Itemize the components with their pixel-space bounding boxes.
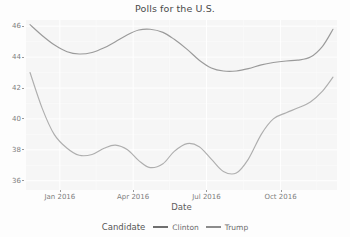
legend-title: Candidate	[102, 222, 145, 232]
plot-panel	[26, 20, 337, 190]
y-tick-mark	[22, 118, 24, 119]
legend-key-icon	[206, 223, 221, 231]
x-axis-title: Date	[26, 202, 337, 212]
x-tick-label: Apr 2016	[103, 193, 163, 201]
y-tick: 42	[0, 83, 26, 93]
legend-label: Trump	[225, 223, 248, 232]
y-tick: 38	[0, 145, 26, 155]
y-tick-label: 44	[12, 52, 21, 62]
x-tick-mark	[206, 190, 207, 192]
y-tick-label: 36	[12, 176, 21, 186]
x-tick-mark	[60, 190, 61, 192]
y-tick: 46	[0, 21, 26, 31]
series-line-clinton	[30, 25, 333, 72]
y-tick-label: 40	[12, 114, 21, 124]
legend-item-clinton[interactable]: Clinton	[153, 223, 198, 232]
chart-figure: Polls for the U.S. 464442403836 Jan 2016…	[0, 0, 350, 237]
y-tick: 44	[0, 52, 26, 62]
y-tick-label: 46	[12, 21, 21, 31]
x-tick-label: Jul 2016	[176, 193, 236, 201]
legend-item-trump[interactable]: Trump	[206, 223, 248, 232]
y-tick-label: 42	[12, 83, 21, 93]
y-tick-mark	[22, 26, 24, 27]
x-tick-mark	[281, 190, 282, 192]
y-tick-mark	[22, 180, 24, 181]
series-lines	[26, 20, 337, 190]
series-line-trump	[30, 73, 333, 174]
legend-label: Clinton	[172, 223, 198, 232]
x-tick-label: Oct 2016	[251, 193, 311, 201]
y-tick-mark	[22, 57, 24, 58]
chart-title: Polls for the U.S.	[0, 3, 350, 14]
legend: Candidate ClintonTrump	[0, 222, 350, 232]
y-tick-mark	[22, 88, 24, 89]
y-tick-label: 38	[12, 145, 21, 155]
y-tick: 40	[0, 114, 26, 124]
y-tick: 36	[0, 176, 26, 186]
x-tick-mark	[133, 190, 134, 192]
legend-key-icon	[153, 223, 168, 231]
x-tick-label: Jan 2016	[30, 193, 90, 201]
y-tick-mark	[22, 149, 24, 150]
